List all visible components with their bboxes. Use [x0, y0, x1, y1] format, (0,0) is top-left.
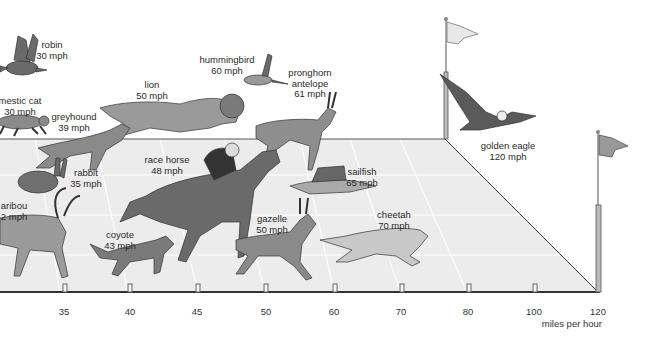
tick-60: 60 — [329, 306, 340, 317]
coyote-label: coyote 43 mph — [104, 230, 136, 251]
robin-label: robin 30 mph — [36, 40, 68, 61]
tick-35: 35 — [59, 306, 70, 317]
greyhound-name: greyhound — [52, 112, 97, 123]
lion-speed: 50 mph — [136, 91, 168, 102]
tick-70: 70 — [396, 306, 407, 317]
caribou-label: aribou 2 mph — [1, 201, 27, 222]
gazelle-label: gazelle 50 mph — [256, 214, 288, 235]
hummingbird-speed: 60 mph — [200, 66, 255, 77]
sailfish-label: sailfish 65 mph — [346, 167, 378, 188]
robin-name: robin — [36, 40, 68, 51]
pronghorn-speed: 61 mph — [288, 89, 331, 100]
robin-speed: 30 mph — [36, 51, 68, 62]
lion-label: lion 50 mph — [136, 80, 168, 101]
tick-100: 100 — [526, 306, 542, 317]
race-horse-speed: 48 mph — [145, 166, 190, 177]
lion-name: lion — [136, 80, 168, 91]
animal-speed-infographic: robin 30 mph mestic cat 30 mph greyhound… — [0, 0, 654, 342]
greyhound-speed: 39 mph — [52, 123, 97, 134]
front-flag-icon — [596, 130, 628, 292]
greyhound-label: greyhound 39 mph — [52, 112, 97, 133]
golden-eagle-label: golden eagle 120 mph — [481, 141, 535, 162]
caribou-name: aribou — [1, 201, 27, 212]
golden-eagle-name: golden eagle — [481, 141, 535, 152]
tick-40: 40 — [125, 306, 136, 317]
cheetah-name: cheetah — [377, 210, 411, 221]
coyote-name: coyote — [104, 230, 136, 241]
gazelle-name: gazelle — [256, 214, 288, 225]
tick-80: 80 — [463, 306, 474, 317]
rabbit-speed: 35 mph — [70, 179, 102, 190]
coyote-speed: 43 mph — [104, 241, 136, 252]
tick-45: 45 — [192, 306, 203, 317]
axis-unit-label: miles per hour — [542, 318, 602, 329]
domestic-cat-name: mestic cat — [0, 96, 41, 107]
golden-eagle-icon — [440, 74, 536, 130]
hummingbird-label: hummingbird 60 mph — [200, 55, 255, 76]
race-horse-name: race horse — [145, 155, 190, 166]
tick-50: 50 — [261, 306, 272, 317]
gazelle-speed: 50 mph — [256, 225, 288, 236]
domestic-cat-label: mestic cat 30 mph — [0, 96, 41, 117]
domestic-cat-icon — [0, 115, 49, 136]
cheetah-speed: 70 mph — [377, 221, 411, 232]
cheetah-label: cheetah 70 mph — [377, 210, 411, 231]
tick-120: 120 — [590, 306, 606, 317]
rabbit-name: rabbit — [70, 168, 102, 179]
race-horse-label: race horse 48 mph — [145, 155, 190, 176]
domestic-cat-speed: 30 mph — [0, 107, 41, 118]
pronghorn-antelope-label: pronghorn antelope 61 mph — [288, 68, 331, 100]
golden-eagle-speed: 120 mph — [481, 152, 535, 163]
pronghorn-name-line1: pronghorn — [288, 68, 331, 79]
caribou-speed: 2 mph — [1, 212, 27, 223]
sailfish-name: sailfish — [346, 167, 378, 178]
sailfish-speed: 65 mph — [346, 178, 378, 189]
hummingbird-name: hummingbird — [200, 55, 255, 66]
rabbit-label: rabbit 35 mph — [70, 168, 102, 189]
